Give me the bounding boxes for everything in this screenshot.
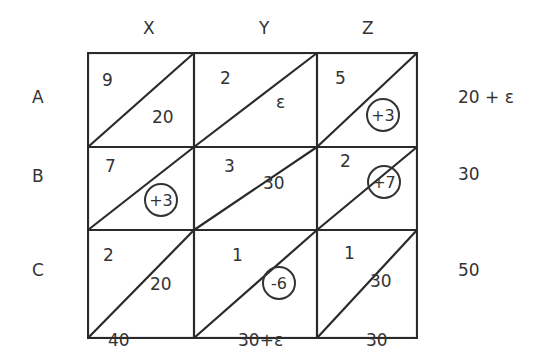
cell-a-x-cost: 9	[102, 70, 113, 90]
cell-c-y-cost: 1	[232, 245, 243, 265]
row-header-b: B	[32, 166, 44, 186]
cell-a-x-allocation: 20	[152, 107, 174, 127]
cell-a-y-cost: 2	[220, 68, 231, 88]
cell-b-z-circled-value: +7	[367, 165, 401, 199]
cell-a-y-allocation: ε	[276, 92, 285, 112]
supply-a: 20 + ε	[458, 87, 514, 107]
cell-b-z-cost: 2	[340, 151, 351, 171]
row-header-c: C	[32, 260, 44, 280]
cell-a-z-cost: 5	[335, 68, 346, 88]
cell-b-y-allocation: 30	[263, 173, 285, 193]
demand-x: 40	[108, 330, 130, 350]
demand-z: 30	[366, 330, 388, 350]
cell-c-z-cost: 1	[344, 243, 355, 263]
supply-b: 30	[458, 164, 480, 184]
transportation-tableau: 9 20 2 ε 5 +3 7 +3 3 30 2 +7 2 20 1 -6 1…	[87, 52, 418, 339]
demand-y: 30+ε	[238, 330, 283, 350]
cell-b-x-cost: 7	[105, 156, 116, 176]
column-header-x: X	[143, 18, 155, 38]
cell-c-x-cost: 2	[103, 245, 114, 265]
cell-a-z-circled-value: +3	[366, 98, 400, 132]
cell-c-x-allocation: 20	[150, 274, 172, 294]
supply-c: 50	[458, 260, 480, 280]
cell-c-y-circled-value: -6	[262, 266, 296, 300]
column-header-y: Y	[259, 18, 269, 38]
column-header-z: Z	[362, 18, 374, 38]
row-header-a: A	[32, 87, 44, 107]
cell-b-y-cost: 3	[224, 156, 235, 176]
grid-lines	[87, 52, 418, 339]
cell-c-z-allocation: 30	[370, 271, 392, 291]
cell-b-x-circled-value: +3	[144, 183, 178, 217]
